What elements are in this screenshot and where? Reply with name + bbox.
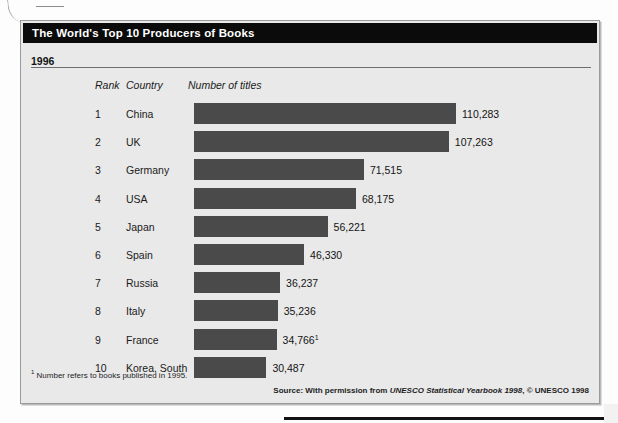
bar-chart-rows: 1China110,2832UK107,2633Germany71,5154US…	[21, 101, 601, 383]
bar	[194, 300, 278, 321]
table-row: 6Spain46,330	[21, 242, 601, 270]
row-rank: 9	[95, 334, 117, 346]
row-bar-track: 30,487	[194, 357, 595, 378]
row-country: China	[126, 108, 153, 120]
table-row: 2UK107,263	[21, 129, 601, 157]
bar-value-label: 30,487	[272, 362, 304, 374]
table-row: 9France34,7661	[21, 327, 601, 355]
row-country: Russia	[126, 277, 158, 289]
table-row: 1China110,283	[21, 101, 601, 129]
column-header-country: Country	[126, 79, 163, 91]
bar-value-label: 34,7661	[283, 334, 319, 346]
scan-artifact-right-edge	[604, 404, 618, 423]
bar-value-label: 68,175	[362, 193, 394, 205]
row-bar-track: 34,7661	[194, 329, 595, 350]
page-title: The World's Top 10 Producers of Books	[23, 27, 255, 39]
bar	[194, 216, 328, 237]
bar-value-number: 110,283	[462, 108, 499, 120]
bar-value-label: 71,515	[370, 164, 402, 176]
row-country: Germany	[126, 164, 169, 176]
row-bar-track: 36,237	[194, 272, 595, 293]
row-bar-track: 46,330	[194, 244, 595, 265]
source-publication: UNESCO Statistical Yearbook 1998	[390, 386, 523, 395]
table-row: 8Italy35,236	[21, 298, 601, 326]
footnote-text: Number refers to books published in 1995…	[37, 371, 188, 380]
row-rank: 6	[95, 249, 117, 261]
row-bar-track: 107,263	[194, 131, 595, 152]
bar-value-label: 46,330	[310, 249, 342, 261]
bar-value-number: 34,766	[283, 334, 315, 346]
bar-value-number: 35,236	[284, 305, 316, 317]
footnote: 1 Number refers to books published in 19…	[31, 371, 187, 380]
scan-artifact-bottom-rule	[284, 417, 618, 420]
bar-value-number: 56,221	[334, 221, 366, 233]
row-country: Japan	[126, 221, 155, 233]
row-bar-track: 110,283	[194, 103, 595, 124]
header-divider	[31, 67, 591, 68]
bar	[194, 159, 364, 180]
row-bar-track: 71,515	[194, 159, 595, 180]
row-country: USA	[126, 193, 148, 205]
row-rank: 4	[95, 193, 117, 205]
bar-value-label: 36,237	[286, 277, 318, 289]
row-country: Italy	[126, 305, 145, 317]
row-bar-track: 68,175	[194, 188, 595, 209]
bar-value-number: 30,487	[272, 362, 304, 374]
source-prefix: Source: With permission from	[273, 386, 389, 395]
row-rank: 8	[95, 305, 117, 317]
column-headers: Rank Country Number of titles	[21, 79, 601, 95]
row-country: UK	[126, 136, 141, 148]
table-row: 7Russia36,237	[21, 270, 601, 298]
source-suffix: , © UNESCO 1998	[522, 386, 589, 395]
row-rank: 5	[95, 221, 117, 233]
column-header-number-of-titles: Number of titles	[188, 79, 262, 91]
table-row: 5Japan56,221	[21, 214, 601, 242]
footnote-marker: 1	[31, 369, 34, 375]
bar-value-label: 35,236	[284, 305, 316, 317]
bar-value-label: 110,283	[462, 108, 499, 120]
figure-title-bar: The World's Top 10 Producers of Books	[23, 23, 597, 43]
row-bar-track: 35,236	[194, 300, 595, 321]
bar	[194, 131, 449, 152]
scan-artifact-line-icon	[36, 6, 64, 7]
table-row: 3Germany71,515	[21, 157, 601, 185]
bar-value-label: 107,263	[455, 136, 493, 148]
bar	[194, 188, 356, 209]
figure-panel: The World's Top 10 Producers of Books 19…	[20, 20, 600, 404]
bar-value-number: 107,263	[455, 136, 493, 148]
bar-value-number: 68,175	[362, 193, 394, 205]
bar	[194, 244, 304, 265]
bar	[194, 329, 277, 350]
row-rank: 1	[95, 108, 117, 120]
bar-value-label: 56,221	[334, 221, 366, 233]
row-bar-track: 56,221	[194, 216, 595, 237]
source-line: Source: With permission from UNESCO Stat…	[273, 386, 589, 395]
bar-value-footnote-ref: 1	[315, 333, 319, 340]
row-country: Spain	[126, 249, 153, 261]
year-label: 1996	[31, 55, 54, 67]
column-header-rank: Rank	[95, 79, 120, 91]
bar	[194, 272, 280, 293]
table-row: 4USA68,175	[21, 186, 601, 214]
bar	[194, 357, 266, 378]
row-rank: 7	[95, 277, 117, 289]
bar-value-number: 71,515	[370, 164, 402, 176]
bar-value-number: 36,237	[286, 277, 318, 289]
bar	[194, 103, 456, 124]
bar-value-number: 46,330	[310, 249, 342, 261]
row-rank: 3	[95, 164, 117, 176]
row-rank: 2	[95, 136, 117, 148]
row-country: France	[126, 334, 159, 346]
